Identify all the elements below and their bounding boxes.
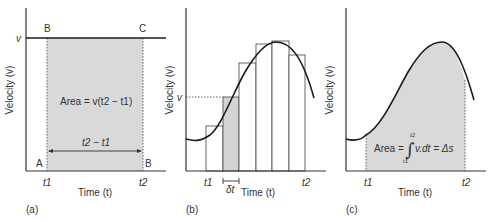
panel-label: (c) — [346, 204, 358, 215]
y-axis-label: Velocity (v) — [4, 66, 15, 115]
area-formula: Area = v(t2 − t1) — [60, 96, 132, 107]
panel-b: v t1 t2 δt Time (t) Velocity (v) (b) — [164, 8, 326, 215]
t2-label: t2 — [462, 177, 471, 188]
t1-label: t1 — [204, 177, 212, 188]
velocity-time-diagrams: v B C A B Area = v(t2 − t1) t2 − t1 t1 t… — [0, 0, 494, 222]
bar-6 — [289, 55, 305, 171]
t2-label: t2 — [139, 177, 148, 188]
integral-lower: t1 — [403, 158, 408, 164]
t2-label: t2 — [302, 177, 311, 188]
panel-label: (a) — [26, 204, 38, 215]
bar-4 — [256, 44, 272, 171]
v-label: v — [177, 92, 183, 103]
panel-a: v B C A B Area = v(t2 − t1) t2 − t1 t1 t… — [4, 8, 166, 215]
t1-label: t1 — [364, 177, 372, 188]
y-axis-label: Velocity (v) — [324, 66, 335, 115]
y-axis-label: Velocity (v) — [164, 66, 175, 115]
panel-c: Area = ∫ t2 t1 v.dt = Δs t1 t2 Time (t) … — [324, 8, 486, 215]
x-axis-label: Time (t) — [241, 187, 275, 198]
corner-b-top: B — [44, 23, 51, 34]
corner-c: C — [139, 23, 146, 34]
x-axis-label: Time (t) — [398, 187, 432, 198]
corner-a: A — [36, 158, 43, 169]
panel-label: (b) — [186, 204, 198, 215]
corner-b-bottom: B — [145, 158, 152, 169]
integrand-text: v.dt = Δs — [415, 143, 453, 154]
bar-5 — [272, 41, 289, 171]
x-axis-label: Time (t) — [78, 187, 112, 198]
integral-sign-icon: ∫ — [405, 139, 415, 160]
bar-1 — [206, 126, 223, 171]
dt-label: δt — [226, 184, 236, 195]
interval-label: t2 − t1 — [82, 137, 110, 148]
v-label: v — [16, 33, 22, 44]
bar-2-highlighted — [223, 97, 239, 171]
area-text: Area = — [374, 143, 404, 154]
t1-label: t1 — [43, 177, 51, 188]
integral-upper: t2 — [410, 132, 416, 138]
